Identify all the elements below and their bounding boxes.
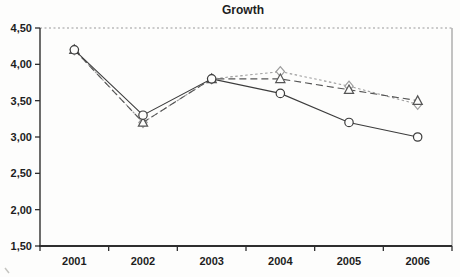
y-tick-label: 3,00 <box>11 131 32 143</box>
y-tick-label: 1,50 <box>11 240 32 252</box>
circle-marker <box>139 111 147 119</box>
chart-container: Growth 4,504,003,503,002,502,001,5020012… <box>0 0 460 277</box>
circle-marker <box>207 75 215 83</box>
x-tick-label: 2003 <box>199 255 223 267</box>
y-tick-label: 2,50 <box>11 167 32 179</box>
plot-area: 4,504,003,503,002,502,001,50200120022003… <box>11 22 452 267</box>
growth-line-chart: Growth 4,504,003,503,002,502,001,5020012… <box>0 0 460 277</box>
x-tick-label: 2006 <box>405 255 429 267</box>
y-tick-label: 2,00 <box>11 204 32 216</box>
scan-artifact <box>5 268 9 273</box>
circle-marker <box>70 46 78 54</box>
circle-marker <box>276 89 284 97</box>
y-tick-label: 3,50 <box>11 95 32 107</box>
y-tick-label: 4,00 <box>11 58 32 70</box>
x-tick-label: 2001 <box>62 255 86 267</box>
circle-series-line <box>74 50 417 137</box>
x-tick-label: 2005 <box>337 255 361 267</box>
x-tick-label: 2002 <box>131 255 155 267</box>
circle-marker <box>345 118 353 126</box>
chart-title: Growth <box>222 3 264 17</box>
circle-marker <box>413 133 421 141</box>
y-tick-label: 4,50 <box>11 22 32 34</box>
x-tick-label: 2004 <box>268 255 293 267</box>
